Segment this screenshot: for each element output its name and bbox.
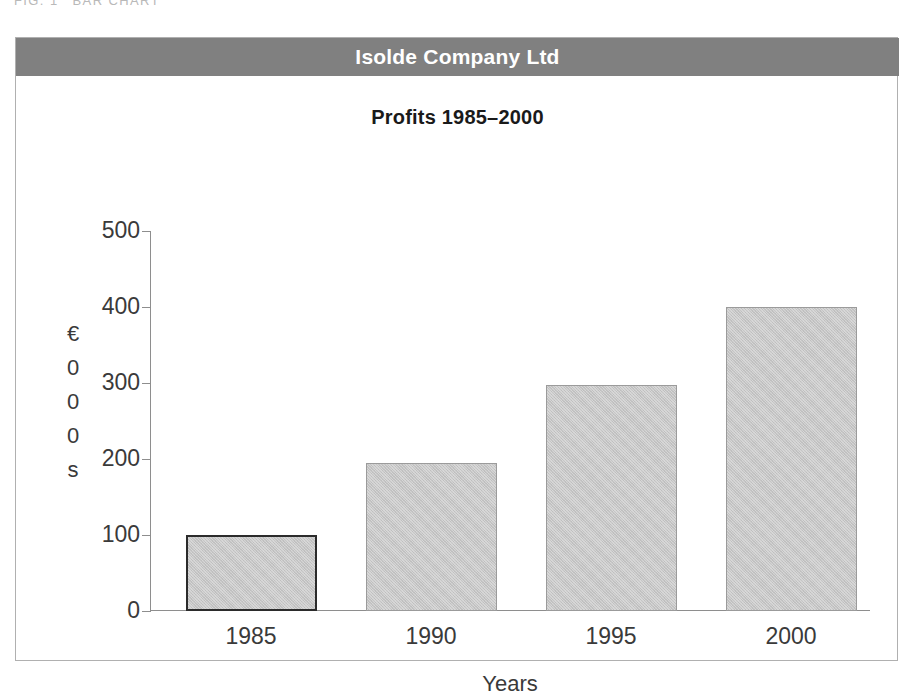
y-tick-mark	[142, 611, 151, 612]
y-axis-label-char-0: €	[58, 317, 88, 351]
y-axis-label: € 0 0 0 s	[58, 317, 88, 487]
y-tick-label: 0	[70, 599, 140, 622]
chart-title: Profits 1985–2000	[16, 106, 899, 129]
y-axis-label-char-4: s	[58, 453, 88, 487]
x-tick-label-1990: 1990	[341, 623, 521, 650]
bar-1995	[546, 385, 677, 611]
x-tick-label-1995: 1995	[521, 623, 701, 650]
plot-region: 0100200300400500 € 0 0 0 s 1985199019952…	[150, 231, 870, 611]
bar-series	[150, 231, 870, 611]
company-header-band: Isolde Company Ltd	[16, 38, 899, 76]
figure-caption: FIG. 1BAR CHART	[14, 0, 160, 8]
y-tick-label: 500	[70, 219, 140, 242]
y-tick-label: 100	[70, 523, 140, 546]
y-axis-label-char-1: 0	[58, 351, 88, 385]
y-tick-label: 400	[70, 295, 140, 318]
figure-caption-text: BAR CHART	[73, 0, 160, 8]
chart-panel: Isolde Company Ltd Profits 1985–2000 010…	[15, 37, 898, 661]
bar-1990	[366, 463, 497, 611]
figure-number: FIG. 1	[14, 0, 59, 8]
x-axis-title: Years	[150, 671, 870, 695]
chart-area: Profits 1985–2000 0100200300400500 € 0 0…	[16, 76, 899, 660]
company-name: Isolde Company Ltd	[355, 45, 559, 69]
bar-1985	[186, 535, 317, 611]
y-axis-label-char-3: 0	[58, 419, 88, 453]
x-tick-label-2000: 2000	[701, 623, 881, 650]
bar-2000	[726, 307, 857, 611]
x-tick-label-1985: 1985	[161, 623, 341, 650]
y-axis-label-char-2: 0	[58, 385, 88, 419]
